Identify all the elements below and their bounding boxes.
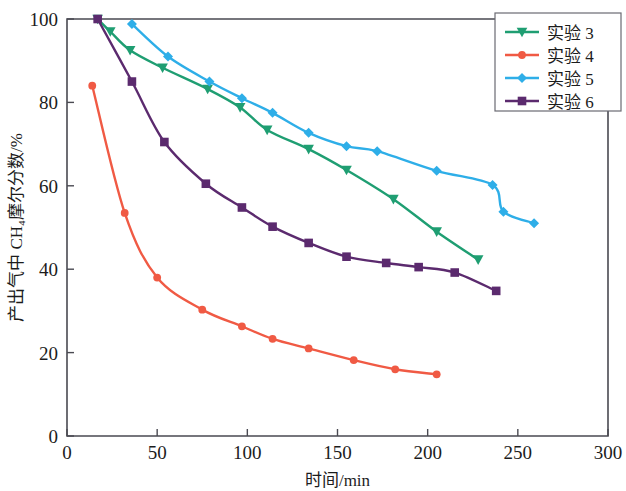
data-point-square <box>304 239 313 248</box>
series-line-3 <box>132 24 534 223</box>
data-point-square <box>160 138 169 147</box>
y-tick-label: 80 <box>39 92 58 113</box>
legend-marker <box>518 51 526 59</box>
y-tick-label: 40 <box>39 259 58 280</box>
data-point-square <box>93 15 102 24</box>
data-point-circle <box>391 365 399 373</box>
legend-entry-label: 实验 4 <box>547 47 594 66</box>
data-point-circle <box>153 274 161 282</box>
data-point-diamond <box>342 141 352 151</box>
data-point-diamond <box>432 166 442 176</box>
data-point-circle <box>238 322 246 330</box>
legend-entry-label: 实验 6 <box>547 93 594 112</box>
data-point-square <box>492 287 501 296</box>
data-point-triangle <box>125 46 136 56</box>
series-line-4 <box>98 19 497 291</box>
data-point-triangle <box>473 255 484 265</box>
legend-marker <box>518 97 527 106</box>
data-point-circle <box>88 82 96 90</box>
y-tick-label: 20 <box>39 343 58 364</box>
chart-figure: 050100150200250300时间/min020406080100产出气中… <box>0 0 626 491</box>
x-axis: 050100150200250300时间/min <box>62 429 622 490</box>
data-point-diamond <box>237 93 247 103</box>
data-point-diamond <box>268 108 278 118</box>
legend-entry-label: 实验 5 <box>547 70 594 89</box>
data-point-triangle <box>341 166 352 176</box>
data-point-circle <box>305 345 313 353</box>
data-point-square <box>268 222 277 231</box>
data-point-circle <box>350 356 358 364</box>
y-axis: 020406080100产出气中 CH₄摩尔分数/% <box>7 9 74 447</box>
y-axis-title: 产出气中 CH₄摩尔分数/% <box>7 133 26 322</box>
y-tick-label: 0 <box>49 426 59 447</box>
y-tick-label: 60 <box>39 176 58 197</box>
data-point-diamond <box>372 146 382 156</box>
x-axis-title: 时间/min <box>305 471 371 490</box>
data-point-circle <box>433 370 441 378</box>
x-tick-label: 250 <box>504 442 533 463</box>
x-tick-label: 200 <box>413 442 442 463</box>
line-chart-canvas: 050100150200250300时间/min020406080100产出气中… <box>0 0 626 491</box>
data-point-diamond <box>529 218 539 228</box>
legend-entry-label: 实验 3 <box>547 24 594 43</box>
x-tick-label: 0 <box>62 442 72 463</box>
data-point-square <box>450 268 459 277</box>
data-point-square <box>382 259 391 268</box>
data-point-triangle <box>303 145 314 155</box>
legend: 实验 3实验 4实验 5实验 6 <box>495 13 621 112</box>
series-line-1 <box>98 19 479 260</box>
x-tick-label: 300 <box>594 442 623 463</box>
data-point-square <box>238 203 247 212</box>
series-4 <box>93 15 500 295</box>
data-point-square <box>342 252 351 261</box>
x-tick-label: 100 <box>233 442 262 463</box>
data-point-square <box>128 77 137 86</box>
y-tick-label: 100 <box>30 9 59 30</box>
data-point-triangle <box>202 85 213 95</box>
data-point-triangle <box>262 126 273 136</box>
data-point-square <box>202 179 211 188</box>
series-layer <box>88 15 539 378</box>
data-point-circle <box>121 209 129 217</box>
data-point-square <box>414 263 423 272</box>
data-point-diamond <box>304 128 314 138</box>
x-tick-label: 150 <box>323 442 352 463</box>
series-3 <box>127 19 539 228</box>
series-1 <box>92 15 483 265</box>
data-point-circle <box>269 335 277 343</box>
data-point-circle <box>198 306 206 314</box>
x-tick-label: 50 <box>148 442 167 463</box>
